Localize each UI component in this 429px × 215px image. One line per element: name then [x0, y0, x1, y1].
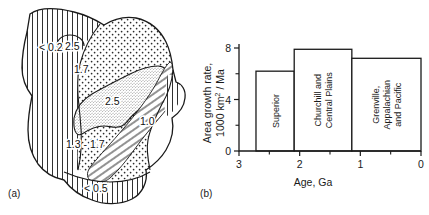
chart-x-tick-3: 3 [236, 158, 242, 170]
chart-x-tick-2: 2 [297, 158, 303, 170]
svg-text:Superior: Superior [271, 94, 281, 128]
map-label-grenville-province: 1.0 [140, 115, 155, 127]
map-label-southern-province: 1.3 - 1.7 [66, 138, 105, 150]
map-label-appalachian-coastal: < 0.5 [84, 182, 108, 194]
chart-x-tick-0: 0 [418, 158, 424, 170]
chart-x-tick-1: 1 [357, 158, 363, 170]
panel-b-chart: 0483210 SuperiorChurchill andCentral Pla… [195, 0, 429, 215]
svg-text:Appalachian: Appalachian [382, 80, 392, 130]
chart-y-tick-8: 8 [225, 42, 231, 54]
map-label-superior-arrow: 2.5 [65, 40, 80, 52]
province-map: < 0.2 2.5 1.7 2.5 1.3 - 1.7 1.0 < 0.5 [0, 0, 195, 215]
figure-root: < 0.2 2.5 1.7 2.5 1.3 - 1.7 1.0 < 0.5 (a… [0, 0, 429, 215]
svg-text:Churchill and: Churchill and [313, 74, 323, 127]
chart-bar-label-1: Churchill andCentral Plains [313, 72, 334, 129]
panel-a-caption: (a) [8, 188, 21, 199]
panel-b-caption: (b) [200, 188, 213, 199]
map-label-western-cordillera: < 0.2 [39, 41, 63, 53]
map-label-central-plains: 1.7 [74, 63, 89, 75]
chart-bar-label-0: Superior [271, 94, 281, 128]
chart-y-tick-0: 0 [225, 145, 231, 157]
svg-text:Central Plains: Central Plains [324, 72, 334, 129]
panel-a-map: < 0.2 2.5 1.7 2.5 1.3 - 1.7 1.0 < 0.5 (a… [0, 0, 195, 215]
map-label-superior-province: 2.5 [105, 95, 120, 107]
svg-text:and Pacific: and Pacific [393, 82, 403, 127]
chart-bar-label-2: Grenville,Appalachianand Pacific [371, 80, 403, 130]
chart-y-axis-title-line2: 1000 km2 / Ma [213, 69, 226, 137]
chart-y-axis-title: Area growth rate, 1000 km2 / Ma [201, 63, 226, 144]
chart-x-axis-title: Age, Ga [294, 176, 333, 188]
y-axis-unit-tail: / Ma [214, 69, 226, 92]
chart-y-axis-title-line1: Area growth rate, [201, 63, 213, 144]
area-growth-rate-chart: 0483210 SuperiorChurchill andCentral Pla… [195, 0, 429, 215]
y-axis-unit-base: 1000 km [214, 96, 226, 137]
svg-text:Grenville,: Grenville, [371, 86, 381, 124]
chart-y-tick-4: 4 [225, 94, 231, 106]
